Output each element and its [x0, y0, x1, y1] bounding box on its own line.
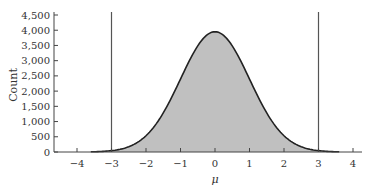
normal-distribution-chart: 05001,0001,5002,0002,5003,0003,5004,0004…	[0, 0, 371, 191]
x-tick-label: 3	[315, 158, 321, 169]
y-axis-ticks: 05001,0001,5002,0002,5003,0003,5004,0004…	[21, 10, 58, 158]
y-tick-label: 0	[44, 147, 50, 158]
x-tick-label: −3	[104, 158, 119, 169]
x-tick-label: 0	[212, 158, 218, 169]
y-tick-label: 4,500	[21, 10, 50, 21]
y-tick-label: 1,500	[21, 101, 50, 112]
x-tick-label: −4	[70, 158, 85, 169]
y-tick-label: 1,000	[21, 116, 50, 127]
y-tick-label: 500	[31, 131, 50, 142]
shaded-area	[112, 32, 319, 152]
x-tick-label: −1	[173, 158, 188, 169]
y-tick-label: 3,500	[21, 40, 50, 51]
y-tick-label: 2,000	[21, 86, 50, 97]
shaded-region	[112, 32, 319, 152]
x-tick-label: 2	[281, 158, 287, 169]
x-tick-label: −2	[139, 158, 154, 169]
x-axis-label: μ	[211, 173, 218, 186]
y-axis-label: Count	[7, 68, 20, 102]
x-tick-label: 1	[246, 158, 252, 169]
x-tick-label: 4	[350, 158, 356, 169]
y-tick-label: 3,000	[21, 55, 50, 66]
y-tick-label: 4,000	[21, 25, 50, 36]
y-tick-label: 2,500	[21, 70, 50, 81]
